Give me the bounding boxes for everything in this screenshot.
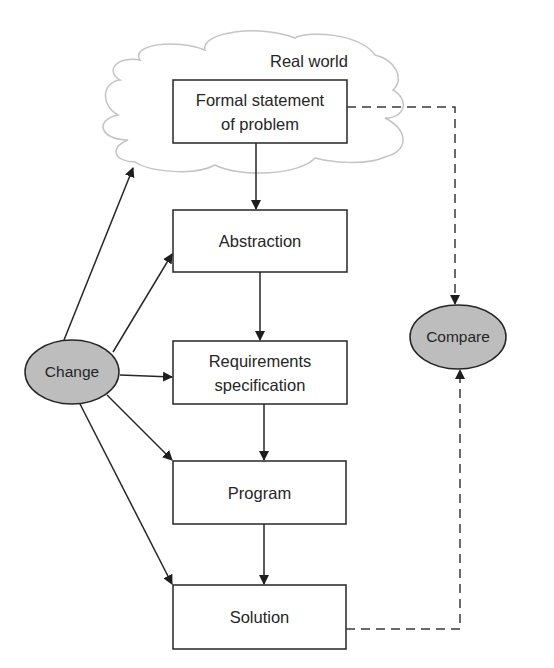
arrow-change-to-real-world [64,168,133,340]
dashed-arrow-solution-to-compare [346,370,460,629]
ellipse-compare-label: Compare [410,305,506,369]
box-solution-label: Solution [173,585,346,649]
arrow-change-to-requirements [120,375,172,377]
arrow-change-to-solution [80,404,172,584]
ellipse-change-label: Change [25,340,119,404]
box-program-label: Program [173,461,346,524]
real-world-label: Real world [270,52,348,71]
dashed-arrow-formal-to-compare [347,107,455,304]
box-formal-statement-label: Formal statement of problem [173,80,347,143]
arrow-change-to-program [107,395,172,460]
box-requirements-label: Requirements specification [173,341,347,404]
arrow-change-to-abstraction [113,254,172,352]
box-abstraction-label: Abstraction [173,210,347,272]
